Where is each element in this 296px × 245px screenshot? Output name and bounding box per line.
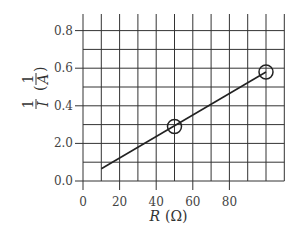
x-tick-label: 80 bbox=[222, 195, 237, 209]
x-tick-label: 0 bbox=[79, 195, 87, 209]
y-tick-label: 0.0 bbox=[54, 174, 73, 188]
svg-text:A: A bbox=[35, 74, 51, 86]
fit-line bbox=[101, 72, 266, 169]
chart: 0204060800.02.00.40.60.8 R (Ω) 1 I ( 1 A… bbox=[0, 0, 296, 245]
x-axis-unit: (Ω) bbox=[165, 208, 188, 224]
y-tick-label: 2.0 bbox=[54, 136, 73, 150]
x-tick-label: 20 bbox=[112, 195, 127, 209]
y-tick-label: 0.6 bbox=[54, 61, 73, 75]
svg-text:): ) bbox=[32, 67, 48, 72]
svg-text:(: ( bbox=[32, 86, 48, 91]
y-tick-label: 0.8 bbox=[54, 24, 73, 38]
x-tick-label: 60 bbox=[185, 195, 200, 209]
y-axis-label: 1 I ( 1 A ) bbox=[20, 67, 51, 109]
svg-text:I: I bbox=[35, 101, 51, 108]
y-tick-label: 0.4 bbox=[54, 99, 73, 113]
grid bbox=[75, 14, 284, 190]
x-tick-label: 40 bbox=[149, 195, 164, 209]
x-axis-label: R bbox=[148, 208, 160, 224]
svg-text:1: 1 bbox=[20, 100, 36, 109]
svg-text:1: 1 bbox=[20, 75, 36, 84]
